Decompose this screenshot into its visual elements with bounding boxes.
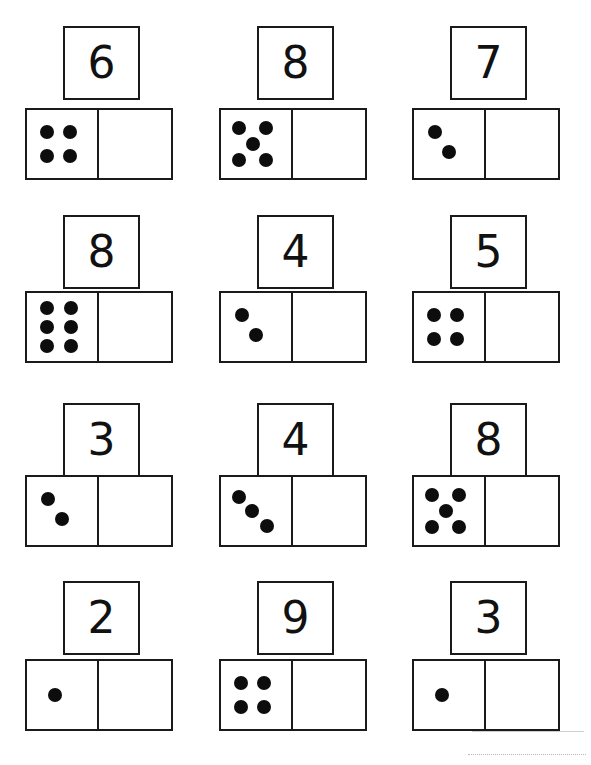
domino-cell-filled: [27, 110, 99, 178]
target-number-value: 8: [88, 230, 116, 274]
domino-cell-filled: [221, 110, 293, 178]
domino-pip: [425, 488, 439, 502]
target-number-box: 9: [257, 581, 334, 655]
domino-pip: [450, 332, 464, 346]
target-number-value: 8: [475, 418, 503, 462]
domino: [219, 291, 367, 363]
domino-pip: [450, 308, 464, 322]
target-number-value: 9: [282, 596, 310, 640]
domino-cell-answer-blank[interactable]: [486, 293, 558, 361]
domino-pip: [442, 145, 456, 159]
domino-pip: [259, 153, 273, 167]
target-number-value: 3: [475, 596, 503, 640]
domino-cell-answer-blank[interactable]: [293, 661, 365, 729]
target-number-box: 8: [450, 403, 527, 477]
domino: [219, 108, 367, 180]
domino: [412, 475, 560, 547]
domino-pip: [259, 121, 273, 135]
domino-pip: [232, 490, 246, 504]
domino-pip: [246, 137, 260, 151]
target-number-value: 2: [88, 596, 116, 640]
domino-cell-filled: [221, 477, 293, 545]
domino: [412, 659, 560, 731]
target-number-value: 4: [282, 230, 310, 274]
domino-cell-answer-blank[interactable]: [486, 110, 558, 178]
domino-pip: [40, 320, 54, 334]
domino-pip: [232, 121, 246, 135]
domino-cell-filled: [414, 110, 486, 178]
domino-pip: [245, 504, 259, 518]
target-number-box: 8: [257, 26, 334, 100]
target-number-value: 7: [475, 41, 503, 85]
scan-edge-artifact: [472, 731, 584, 732]
domino: [25, 291, 173, 363]
domino-pip: [439, 504, 453, 518]
domino-cell-filled: [221, 661, 293, 729]
domino-pip: [257, 700, 271, 714]
target-number-value: 3: [88, 418, 116, 462]
domino-pip: [41, 492, 55, 506]
target-number-box: 3: [63, 403, 140, 477]
domino-pip: [452, 520, 466, 534]
domino-cell-answer-blank[interactable]: [99, 293, 171, 361]
domino-pip: [235, 308, 249, 322]
target-number-box: 2: [63, 581, 140, 655]
domino-pip: [428, 125, 442, 139]
domino: [219, 659, 367, 731]
target-number-box: 3: [450, 581, 527, 655]
domino-cell-answer-blank[interactable]: [293, 477, 365, 545]
domino-pip: [232, 153, 246, 167]
domino-pip: [427, 332, 441, 346]
domino-pip: [257, 676, 271, 690]
domino-pip: [63, 125, 77, 139]
domino-pip: [435, 688, 449, 702]
domino: [25, 659, 173, 731]
target-number-box: 5: [450, 215, 527, 289]
domino-cell-filled: [414, 293, 486, 361]
domino-pip: [40, 339, 54, 353]
worksheet-page: 687845348293: [0, 0, 591, 765]
domino-cell-filled: [414, 477, 486, 545]
domino: [412, 108, 560, 180]
domino-cell-filled: [27, 293, 99, 361]
target-number-box: 6: [63, 26, 140, 100]
domino-pip: [427, 308, 441, 322]
domino: [25, 475, 173, 547]
domino-cell-answer-blank[interactable]: [99, 477, 171, 545]
target-number-box: 8: [63, 215, 140, 289]
domino-cell-filled: [414, 661, 486, 729]
target-number-box: 7: [450, 26, 527, 100]
domino-cell-answer-blank[interactable]: [99, 661, 171, 729]
domino-pip: [64, 339, 78, 353]
target-number-value: 4: [282, 418, 310, 462]
target-number-value: 8: [282, 41, 310, 85]
domino-pip: [234, 676, 248, 690]
domino-cell-answer-blank[interactable]: [293, 110, 365, 178]
domino-pip: [48, 688, 62, 702]
target-number-box: 4: [257, 215, 334, 289]
domino: [219, 475, 367, 547]
domino: [25, 108, 173, 180]
domino-pip: [425, 520, 439, 534]
target-number-value: 5: [475, 230, 503, 274]
domino-cell-answer-blank[interactable]: [99, 110, 171, 178]
domino-cell-answer-blank[interactable]: [486, 661, 558, 729]
scan-dashed-artifact: [468, 754, 586, 755]
domino-cell-filled: [27, 477, 99, 545]
domino-pip: [64, 301, 78, 315]
domino-pip: [452, 488, 466, 502]
domino-pip: [40, 149, 54, 163]
domino: [412, 291, 560, 363]
target-number-value: 6: [88, 41, 116, 85]
domino-pip: [234, 700, 248, 714]
domino-pip: [249, 328, 263, 342]
domino-pip: [63, 149, 77, 163]
domino-cell-answer-blank[interactable]: [293, 293, 365, 361]
domino-pip: [40, 125, 54, 139]
target-number-box: 4: [257, 403, 334, 477]
domino-pip: [260, 519, 274, 533]
domino-cell-answer-blank[interactable]: [486, 477, 558, 545]
domino-cell-filled: [221, 293, 293, 361]
domino-cell-filled: [27, 661, 99, 729]
domino-pip: [64, 320, 78, 334]
